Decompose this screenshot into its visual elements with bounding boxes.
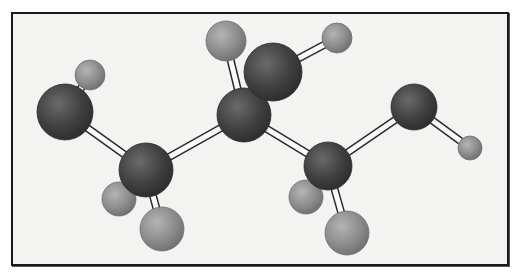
hydrogen-atom-h5 xyxy=(322,23,352,53)
heavy-atom-c1 xyxy=(119,143,173,197)
hydrogen-atom-h8 xyxy=(458,136,482,160)
hydrogen-atom-h3 xyxy=(140,207,184,251)
heavy-atom-o3 xyxy=(391,84,437,130)
molecule-model xyxy=(0,0,515,273)
figure xyxy=(0,0,515,273)
heavy-atom-c3 xyxy=(304,142,352,190)
hydrogen-atom-h1 xyxy=(75,60,105,90)
heavy-atom-o2 xyxy=(244,43,302,101)
hydrogen-atom-h4 xyxy=(206,21,246,61)
hydrogen-atom-h7 xyxy=(325,211,369,255)
heavy-atom-o1 xyxy=(37,84,93,140)
